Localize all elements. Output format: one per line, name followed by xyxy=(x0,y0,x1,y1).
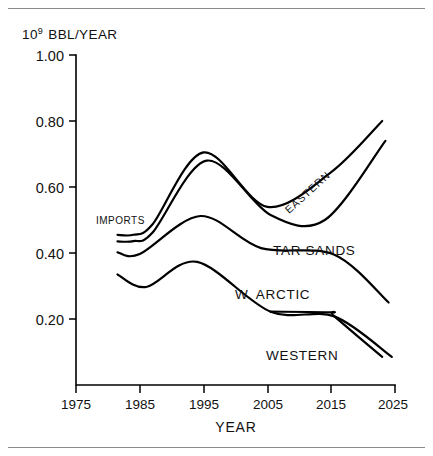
curve-w-arctic-top xyxy=(118,261,392,356)
series-label-w-arctic: W. ARCTIC xyxy=(235,287,310,302)
y-tick-label-0.60: 0.60 xyxy=(36,180,64,196)
y-axis-unit-label: 109BBL/YEAR xyxy=(22,26,117,42)
y-axis-unit-exponent: 9 xyxy=(38,26,43,36)
series-label-western: WESTERN xyxy=(266,348,338,363)
y-tick-label-0.80: 0.80 xyxy=(36,114,64,130)
x-tick-label-2025: 2025 xyxy=(378,397,408,412)
x-axis-title: YEAR xyxy=(215,419,256,435)
y-tick-label-1.00: 1.00 xyxy=(36,48,64,64)
y-axis-unit-mantissa: 10 xyxy=(22,27,38,42)
x-tick-label-2015: 2015 xyxy=(316,397,346,412)
series-label-imports: IMPORTS xyxy=(96,215,145,226)
x-tick-label-1985: 1985 xyxy=(125,397,155,412)
series-label-tar-sands: TAR SANDS xyxy=(273,243,356,258)
series-label-eastern: EASTERN xyxy=(282,169,332,216)
figure-container: 109BBL/YEAR 1.00 0.80 0.60 0.40 0.20 197… xyxy=(0,0,433,456)
curve-eastern-top xyxy=(118,141,386,242)
x-tick-label-1975: 1975 xyxy=(61,397,91,412)
chart-svg: 109BBL/YEAR 1.00 0.80 0.60 0.40 0.20 197… xyxy=(0,0,433,456)
x-tick-label-1995: 1995 xyxy=(189,397,219,412)
curve-imports-top xyxy=(118,121,383,236)
series-curves xyxy=(118,121,392,357)
y-tick-label-0.40: 0.40 xyxy=(36,246,64,262)
x-tick-label-2005: 2005 xyxy=(253,397,283,412)
y-axis-unit-rest: BBL/YEAR xyxy=(48,27,117,42)
y-tick-label-0.20: 0.20 xyxy=(36,312,64,328)
